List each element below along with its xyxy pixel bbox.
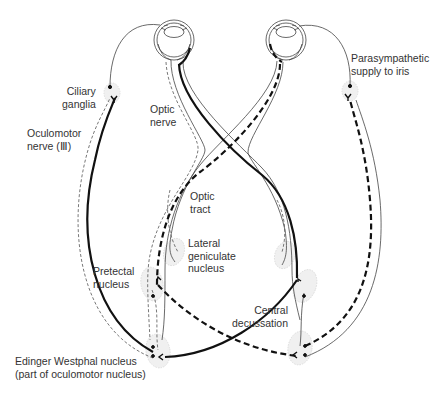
edinger-westphal-right — [285, 329, 315, 367]
lateral-geniculate-label: Lateral geniculate nucleus — [188, 237, 236, 275]
pretectal-nucleus-label: Pretectal nucleus — [93, 265, 134, 290]
left-oculomotor-nerve — [87, 98, 153, 352]
nuclei — [104, 81, 358, 370]
oculomotor-nerve-label: Oculomotor nerve (Ⅲ) — [27, 127, 81, 152]
ciliary-ganglia-label: Ciliary ganglia — [62, 85, 96, 110]
optic-nerve-outlines — [162, 60, 300, 340]
right-oculomotor-outline — [305, 100, 381, 357]
optic-nerve-label: Optic nerve — [150, 103, 176, 128]
right-ciliary-to-iris — [299, 25, 350, 86]
lgn-left — [160, 235, 188, 268]
optic-tract-label: Optic tract — [190, 190, 215, 215]
edinger-westphal-left — [143, 332, 173, 370]
left-ciliary-to-iris — [110, 24, 160, 87]
parasympathetic-label: Parasympathetic supply to iris — [351, 52, 429, 77]
synapse-marks — [108, 84, 351, 360]
left-eye — [154, 20, 194, 65]
right-oculomotor-nerve — [305, 100, 371, 346]
ciliary-ganglion-left — [104, 83, 120, 103]
central-decussation-label: Central decussation — [232, 304, 288, 329]
right-eye — [266, 20, 306, 62]
edinger-westphal-label: Edinger Westphal nucleus (part of oculom… — [15, 355, 146, 380]
